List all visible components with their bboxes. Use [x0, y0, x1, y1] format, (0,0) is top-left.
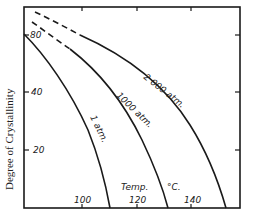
x-tick-label-100: 100 — [74, 195, 91, 205]
x-tick-label-120: 120 — [129, 195, 146, 205]
y-tick-label-80: 80 — [30, 30, 42, 40]
x-axis-label-unit: °C. — [167, 182, 181, 192]
curve-label-1000atm: 1000 atm. — [115, 90, 155, 129]
crystallinity-chart: 80 40 20 100 120 140 Temp. °C. 1 atm. 10… — [0, 0, 253, 217]
y-tick-label-40: 40 — [31, 87, 43, 97]
curve-2000atm-extrapolated — [35, 12, 80, 35]
x-axis-label-temp: Temp. — [121, 182, 148, 192]
x-tick-label-140: 140 — [184, 195, 201, 205]
y-tick-label-20: 20 — [33, 145, 45, 155]
curve-1000atm — [70, 49, 168, 208]
curve-label-2000atm: 2 000 atm. — [142, 72, 187, 110]
